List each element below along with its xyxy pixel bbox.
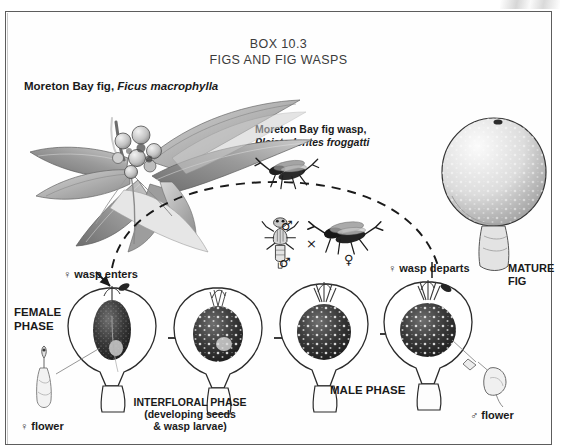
label-female-phase: FEMALE PHASE [14,305,72,333]
label-male-flower: ♂ flower [470,409,514,422]
box-frame: BOX 10.3 FIGS AND FIG WASPS [5,11,552,445]
wasp-species-name: Pleistodontes froggatti [255,136,369,149]
plant-species-name: Ficus macrophylla [114,80,218,92]
box-title-line1: BOX 10.3 [250,37,307,51]
label-interfloral-line1: INTERFLORAL PHASE [134,396,247,408]
box-title: BOX 10.3 FIGS AND FIG WASPS [6,36,551,68]
wasp-name-caption: Moreton Bay fig wasp, Pleistodontes frog… [255,123,369,149]
label-mature-fig: MATURE FIG [508,262,564,288]
label-wasp-departs: ♀ wasp departs [388,262,470,275]
symbol-mating-male-top: ♂ [281,219,293,232]
label-interfloral-phase: INTERFLORAL PHASE (developing seeds & wa… [131,396,249,432]
symbol-mating-cross: × [306,237,317,250]
page-root: BOX 10.3 FIGS AND FIG WASPS Moreton Bay … [0,0,570,448]
label-wasp-enters: ♀ wasp enters [63,268,138,281]
label-interfloral-line2: (developing seeds [144,408,236,420]
plant-name-caption: Moreton Bay fig, Ficus macrophylla [24,80,218,93]
symbol-female-wasp: ♀ [344,253,354,266]
wasp-common-name: Moreton Bay fig wasp, [255,123,366,135]
label-female-flower: ♀ flower [20,420,64,433]
label-interfloral-line3: & wasp larvae) [153,420,227,432]
scan-artifact [500,0,560,9]
plant-common-name: Moreton Bay fig, [24,80,114,92]
box-title-line2: FIGS AND FIG WASPS [6,52,551,68]
label-male-phase: MALE PHASE [330,384,405,397]
symbol-male-wasp: ♂ [279,256,291,269]
